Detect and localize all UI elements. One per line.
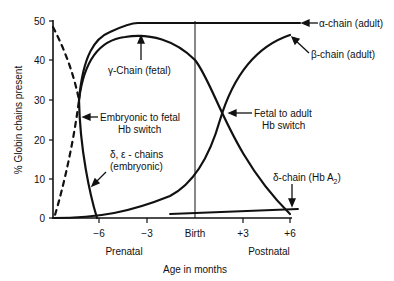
x-tick-minus3: −3 — [141, 228, 153, 239]
prenatal-label: Prenatal — [105, 246, 142, 257]
alpha-chain-curve — [79, 23, 300, 100]
x-axis-label: Age in months — [163, 264, 227, 275]
fetal-switch-label-1: Fetal to adult — [254, 108, 312, 119]
globin-chart: 0 10 20 30 40 50 % Globin chains present… — [0, 0, 394, 281]
x-tick-minus6: −6 — [93, 228, 105, 239]
embryonic-switch-label-2: Hb switch — [118, 124, 161, 135]
y-tick-20: 20 — [34, 135, 46, 146]
embryonic-dashed-curve — [53, 27, 79, 215]
alpha-chain-label: α-chain (adult) — [319, 18, 383, 29]
x-tick-plus6: +6 — [284, 228, 296, 239]
x-tick-birth: Birth — [185, 228, 206, 239]
gamma-chain-curve — [79, 36, 290, 214]
postnatal-label: Postnatal — [248, 246, 290, 257]
fetal-switch-label-2: Hb switch — [262, 120, 305, 131]
y-tick-50: 50 — [34, 16, 46, 27]
y-tick-0: 0 — [39, 213, 45, 224]
embryonic-switch-label-1: Embryonic to fetal — [100, 112, 180, 123]
delta-epsilon-label-2: (embryonic) — [110, 161, 163, 172]
y-tick-30: 30 — [34, 95, 46, 106]
gamma-chain-label: γ-Chain (fetal) — [108, 65, 171, 76]
y-axis-label: % Globin chains present — [13, 66, 24, 175]
x-tick-plus3: +3 — [237, 228, 249, 239]
y-tick-10: 10 — [34, 174, 46, 185]
delta-a2-label: δ-chain (Hb A2) — [273, 172, 341, 185]
beta-chain-label: β-chain (adult) — [311, 49, 375, 60]
delta-epsilon-label-1: δ, ε - chains — [110, 149, 163, 160]
delta-a2-line — [170, 209, 298, 214]
y-tick-40: 40 — [34, 55, 46, 66]
